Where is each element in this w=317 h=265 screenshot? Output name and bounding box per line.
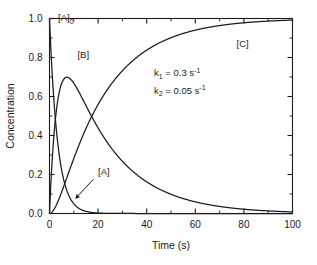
concentration-vs-time-plot: 020406080100 0.00.20.40.60.81.0 [A]0[B][… [0, 0, 317, 265]
C-label: [C] [237, 38, 249, 49]
x-tick-label: 80 [238, 219, 250, 230]
x-tick-label: 40 [141, 219, 153, 230]
x-axis-label: Time (s) [152, 239, 190, 251]
x-tick-label: 60 [190, 219, 202, 230]
x-tick-label: 0 [47, 219, 53, 230]
y-tick-label: 0.0 [29, 208, 43, 219]
x-tick-label: 100 [284, 219, 301, 230]
y-tick-label: 0.8 [29, 52, 43, 63]
y-tick-label: 1.0 [29, 13, 43, 24]
kinetics-chart-figure: 020406080100 0.00.20.40.60.81.0 [A]0[B][… [0, 0, 317, 265]
x-tick-label: 20 [93, 219, 105, 230]
y-tick-label: 0.4 [29, 130, 43, 141]
k2-annotation: k2 = 0.05 s-1 [154, 84, 206, 97]
A-label: [A] [98, 166, 110, 177]
B-label: [B] [77, 49, 89, 60]
y-axis-label: Concentration [4, 83, 16, 149]
y-tick-label: 0.2 [29, 169, 43, 180]
y-tick-label: 0.6 [29, 91, 43, 102]
